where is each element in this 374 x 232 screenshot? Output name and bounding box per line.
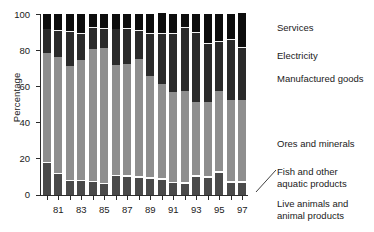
y-tick-mark	[36, 158, 40, 159]
y-tick-mark	[36, 195, 40, 196]
x-tick-mark	[196, 196, 197, 200]
bar-segment	[204, 178, 212, 195]
bar-segment	[146, 34, 154, 77]
bar-segment	[146, 14, 154, 33]
bar-segment	[112, 29, 120, 64]
bar-segment	[181, 14, 189, 27]
x-axis-line	[40, 195, 248, 196]
y-tick-label-100: 100	[4, 10, 30, 20]
x-tick-label-83: 83	[71, 205, 91, 215]
bar-segment	[43, 53, 51, 162]
bar-segment	[181, 28, 189, 91]
bar-column	[158, 14, 166, 195]
bar-segment	[89, 182, 97, 195]
bar-segment	[238, 13, 246, 46]
bar-segment	[54, 174, 62, 195]
bar-segment	[158, 180, 166, 195]
legend-label-ores-and-minerals: Ores and minerals	[277, 138, 355, 150]
bar-segment	[100, 14, 108, 28]
bar-column	[43, 14, 51, 195]
bar-column	[192, 14, 200, 195]
bar-segment	[135, 178, 143, 195]
x-tick-mark	[208, 196, 209, 200]
bar-segment	[238, 183, 246, 195]
bar-segment	[227, 100, 235, 181]
bar-segment	[77, 14, 85, 33]
bar-segment	[66, 14, 74, 31]
bar-segment	[54, 57, 62, 172]
bar-column	[146, 14, 154, 195]
bar-segment	[135, 59, 143, 176]
x-tick-mark	[173, 196, 174, 200]
x-tick-mark	[150, 196, 151, 200]
bar-segment	[204, 102, 212, 176]
bar-segment	[181, 184, 189, 195]
bar-segment	[215, 42, 223, 91]
bar-column	[123, 14, 131, 195]
x-tick-label-87: 87	[117, 205, 137, 215]
bar-segment	[43, 14, 51, 28]
bar-segment	[215, 91, 223, 171]
bar-segment	[123, 64, 131, 176]
bar-column	[66, 14, 74, 195]
bar-segment	[54, 14, 62, 30]
bar-segment	[158, 13, 166, 33]
y-tick-label-80: 80	[4, 46, 30, 56]
bar-segment	[77, 34, 85, 60]
x-tick-label-85: 85	[94, 205, 114, 215]
bar-segment	[215, 14, 223, 41]
x-tick-mark	[162, 196, 163, 200]
plot-area	[41, 14, 248, 195]
bar-segment	[135, 14, 143, 30]
bar-segment	[181, 91, 189, 182]
bar-segment	[100, 48, 108, 182]
y-tick-mark	[36, 122, 40, 123]
bar-segment	[54, 31, 62, 57]
bar-column	[169, 14, 177, 195]
bar-segment	[123, 177, 131, 195]
bar-column	[181, 14, 189, 195]
y-tick-mark	[36, 14, 40, 15]
legend-label-services: Services	[277, 22, 313, 34]
bar-segment	[169, 34, 177, 92]
x-tick-label-93: 93	[186, 205, 206, 215]
y-tick-mark	[36, 86, 40, 87]
x-tick-mark	[58, 196, 59, 200]
bar-segment	[204, 14, 212, 43]
y-tick-label-60: 60	[4, 82, 30, 92]
bar-column	[100, 14, 108, 195]
bar-column	[238, 14, 246, 195]
x-tick-label-81: 81	[48, 205, 68, 215]
bar-segment	[227, 183, 235, 195]
bar-segment	[192, 177, 200, 195]
x-tick-label-95: 95	[209, 205, 229, 215]
bar-segment	[192, 102, 200, 175]
bar-segment	[192, 33, 200, 102]
x-tick-mark	[116, 196, 117, 200]
bar-segment	[192, 14, 200, 32]
x-tick-mark	[219, 196, 220, 200]
bar-column	[135, 14, 143, 195]
bar-segment	[146, 76, 154, 177]
bar-column	[89, 14, 97, 195]
bar-column	[54, 14, 62, 195]
x-tick-mark	[185, 196, 186, 200]
x-tick-mark	[70, 196, 71, 200]
bar-segment	[66, 181, 74, 195]
legend-label-manufactured-goods: Manufactured goods	[277, 73, 364, 85]
bar-segment	[66, 32, 74, 65]
bar-column	[204, 14, 212, 195]
bar-segment	[77, 181, 85, 195]
leader-line-fish	[252, 170, 278, 194]
x-tick-mark	[104, 196, 105, 200]
x-tick-label-89: 89	[140, 205, 160, 215]
bar-column	[215, 14, 223, 195]
bar-column	[227, 14, 235, 195]
bar-segment	[227, 40, 235, 100]
bar-segment	[123, 29, 131, 64]
x-tick-mark	[242, 196, 243, 200]
bar-segment	[112, 176, 120, 195]
x-tick-mark	[81, 196, 82, 200]
x-tick-mark	[139, 196, 140, 200]
bar-segment	[89, 49, 97, 181]
